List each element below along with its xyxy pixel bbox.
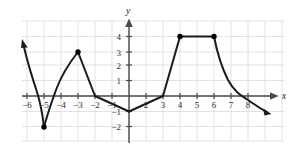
y-axis-label: y bbox=[125, 6, 131, 16]
x-axis-label: x bbox=[281, 91, 287, 101]
y-tick-label: −2 bbox=[111, 122, 121, 132]
x-tick-label: 6 bbox=[212, 100, 217, 110]
y-tick-label: 4 bbox=[117, 32, 122, 42]
x-tick-label: 4 bbox=[178, 100, 183, 110]
y-tick-label: 2 bbox=[117, 61, 122, 71]
x-tick-label: 3 bbox=[161, 100, 166, 110]
y-tick-label: −1 bbox=[111, 107, 121, 117]
horizontal-gridlines bbox=[22, 21, 285, 141]
point-marker bbox=[177, 34, 182, 39]
point-marker bbox=[41, 124, 46, 129]
coordinate-plane: −6 −5 −4 −3 −2 −1 2 3 4 5 6 7 8 4 3 2 1 … bbox=[0, 0, 296, 157]
x-tick-label: −3 bbox=[73, 100, 83, 110]
x-tick-label: −4 bbox=[56, 100, 66, 110]
right-end-arrow-icon bbox=[263, 109, 272, 116]
x-tick-label: 5 bbox=[195, 100, 200, 110]
vertical-gridlines bbox=[27, 21, 282, 141]
graph-figure: −6 −5 −4 −3 −2 −1 2 3 4 5 6 7 8 4 3 2 1 … bbox=[0, 0, 296, 157]
y-axis-tick-labels: 4 3 2 1 −1 −2 bbox=[111, 32, 121, 132]
x-tick-label: 7 bbox=[229, 100, 234, 110]
point-marker bbox=[75, 49, 80, 54]
function-curve bbox=[24, 37, 267, 128]
x-tick-label: −6 bbox=[22, 100, 32, 110]
y-tick-label: 3 bbox=[117, 48, 122, 58]
x-tick-label: −2 bbox=[90, 100, 100, 110]
y-tick-label: 1 bbox=[117, 76, 122, 86]
point-marker bbox=[211, 34, 216, 39]
